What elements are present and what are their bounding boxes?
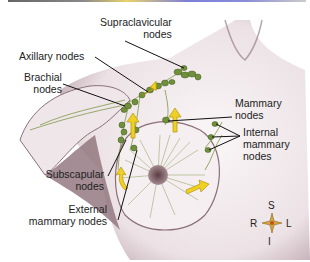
- label-line: Subscapular: [44, 168, 104, 180]
- compass-right: R: [250, 218, 257, 229]
- label-internal-mammary-nodes: Internal mammary nodes: [243, 126, 290, 162]
- label-line: External: [22, 203, 107, 215]
- label-line: Internal: [243, 126, 290, 138]
- compass-superior: S: [268, 200, 275, 211]
- label-brachial-nodes: Brachial nodes: [24, 71, 62, 95]
- label-mammary-nodes: Mammary nodes: [235, 97, 282, 121]
- compass-inferior: I: [268, 236, 271, 247]
- label-subscapular-nodes: Subscapular nodes: [44, 168, 104, 192]
- label-axillary-nodes: Axillary nodes: [19, 50, 84, 62]
- label-line: Supraclavicular: [100, 16, 172, 28]
- label-line: nodes: [235, 109, 282, 121]
- label-line: Mammary: [235, 97, 282, 109]
- label-line: mammary nodes: [22, 215, 107, 227]
- label-line: nodes: [24, 83, 62, 95]
- label-line: mammary: [243, 138, 290, 150]
- label-line: nodes: [100, 28, 172, 40]
- label-supraclavicular-nodes: Supraclavicular nodes: [100, 16, 172, 40]
- nipple: [148, 165, 168, 185]
- label-line: nodes: [44, 180, 104, 192]
- label-line: nodes: [243, 150, 290, 162]
- label-external-mammary-nodes: External mammary nodes: [22, 203, 107, 227]
- compass-left: L: [286, 218, 292, 229]
- label-line: Brachial: [24, 71, 62, 83]
